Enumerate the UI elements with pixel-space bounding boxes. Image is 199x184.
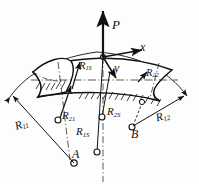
label-r22: R22: [146, 68, 159, 79]
label-load-p: P: [112, 18, 120, 33]
label-r2s: R2S: [107, 106, 120, 118]
shell-left-dome-segment: [33, 58, 73, 97]
label-r1s-upper: R1S: [79, 61, 92, 72]
label-point-b: B: [131, 128, 138, 141]
label-axis-y: y: [114, 62, 119, 75]
label-r21: R21: [62, 110, 75, 122]
shell-diagram-drawing: [0, 0, 199, 184]
label-r1s: R1S: [76, 126, 89, 138]
label-axis-x: x: [140, 41, 145, 54]
figure-canvas: P x y R1S R22 R21 R2S R1S R11 R12 A B: [0, 0, 199, 184]
radius-line-point-b: [129, 99, 145, 130]
label-point-a: A: [72, 148, 79, 161]
